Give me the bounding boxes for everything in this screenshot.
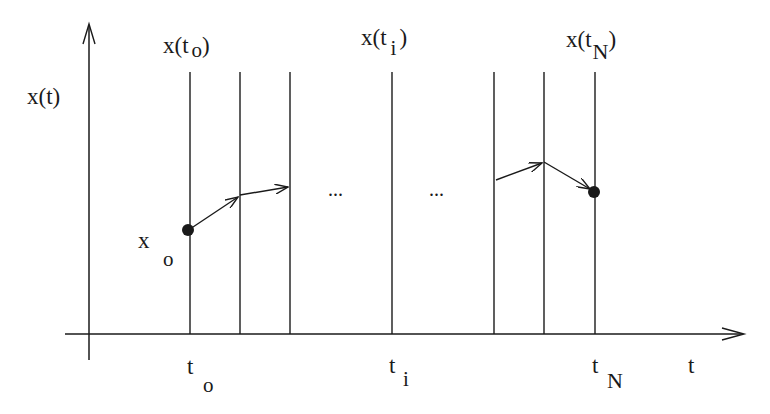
initial-state-label: x o (138, 228, 174, 271)
step-arrow-4 (544, 162, 590, 189)
svg-text:x: x (138, 228, 150, 253)
top-label-ti: x(ti) (361, 25, 407, 60)
step-arrow-3 (496, 163, 542, 180)
bottom-label-tN: t N (592, 353, 623, 393)
step-arrow-1 (190, 197, 238, 229)
x-axis-label: t (688, 353, 695, 378)
y-axis (83, 24, 95, 360)
svg-text:t: t (187, 354, 194, 379)
step-arrow-2 (240, 187, 288, 195)
final-state-dot (588, 186, 600, 198)
trajectory (190, 162, 590, 229)
x-axis (65, 328, 744, 340)
svg-text:i: i (403, 367, 409, 391)
top-label-t0: x(to) (163, 33, 210, 62)
svg-text:x(to): x(to) (163, 33, 210, 62)
svg-text:t: t (389, 353, 396, 378)
svg-text:o: o (163, 247, 174, 271)
bottom-label-t0: t o (187, 354, 214, 397)
top-label-tN: x(tN) (566, 27, 616, 64)
y-axis-label: x(t) (27, 84, 60, 109)
time-gridlines (190, 72, 595, 334)
bottom-label-ti: t i (389, 353, 409, 391)
diagram-canvas: x(t) x(to) x(ti) x(tN) ... ... x o t o t… (0, 0, 770, 414)
svg-text:N: N (607, 368, 623, 393)
initial-state-dot (182, 224, 194, 236)
svg-text:t: t (592, 353, 599, 378)
svg-text:x(ti): x(ti) (361, 25, 407, 60)
svg-text:o: o (203, 373, 214, 397)
svg-text:x(tN): x(tN) (566, 27, 616, 64)
ellipsis-left: ... (328, 178, 343, 200)
ellipsis-right: ... (429, 178, 444, 200)
